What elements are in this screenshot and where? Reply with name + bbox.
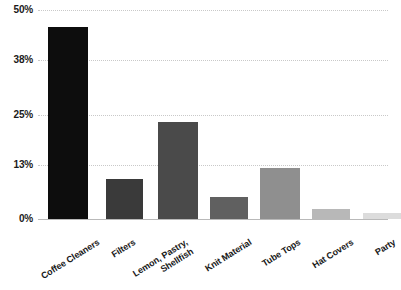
bar-coffee-cleaners: [48, 27, 88, 219]
bar-filters: [106, 179, 143, 219]
bar-tube-tops: [260, 168, 300, 219]
bar-lemon-pastry-shellfish: [158, 122, 198, 219]
y-tick-label-38: 38%: [0, 55, 33, 65]
bars-layer: [38, 10, 388, 219]
y-tick-label-13: 13%: [0, 160, 33, 170]
y-tick-label-25: 25%: [0, 110, 33, 120]
bar-hat-covers: [312, 209, 350, 219]
bar-knit-material: [210, 197, 248, 219]
x-axis: Coffee Cleaners Filters Lemon, Pastry, S…: [0, 219, 393, 290]
y-tick-label-50: 50%: [0, 5, 33, 15]
